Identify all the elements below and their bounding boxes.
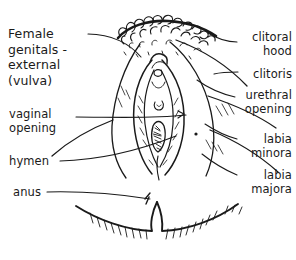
leader-dot-labia-minora	[194, 132, 197, 135]
label-urethral-opening: urethral opening	[245, 89, 292, 116]
label-anus: anus	[13, 186, 41, 200]
label-clitoral-hood: clitoral hood	[252, 31, 292, 58]
label-labia-minora: labia minora	[251, 133, 292, 160]
label-vaginal-opening: vaginal opening	[9, 108, 56, 135]
page-title: Female genitals - external (vulva)	[8, 26, 67, 88]
label-labia-majora: labia majora	[251, 169, 292, 196]
label-hymen: hymen	[9, 155, 49, 169]
label-clitoris: clitoris	[253, 68, 292, 82]
